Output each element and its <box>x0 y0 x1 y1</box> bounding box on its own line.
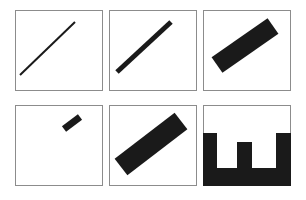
panel-thin-diagonal-line <box>15 10 103 91</box>
comb-left-prong <box>203 133 217 168</box>
panel-4-border <box>16 106 103 186</box>
comb-centre-prong <box>237 142 252 168</box>
panel-2-border <box>110 11 197 91</box>
panel-short-thick-bar-upper-right <box>15 105 103 186</box>
panel-6-canvas <box>203 105 291 186</box>
comb-base-bar <box>203 168 291 186</box>
panel-medium-diagonal-bar <box>109 10 197 91</box>
panel-comb-w-shape <box>203 105 291 186</box>
figure-root <box>0 0 306 200</box>
panel-thick-diagonal-bar <box>203 10 291 91</box>
panel-5-canvas <box>109 105 197 186</box>
panel-3-canvas <box>203 10 291 91</box>
panel-4-canvas <box>15 105 103 186</box>
panel-2-canvas <box>109 10 197 91</box>
panel-thick-long-diagonal-bar <box>109 105 197 186</box>
panel-1-border <box>16 11 103 91</box>
comb-right-prong <box>276 133 291 168</box>
panel-1-canvas <box>15 10 103 91</box>
